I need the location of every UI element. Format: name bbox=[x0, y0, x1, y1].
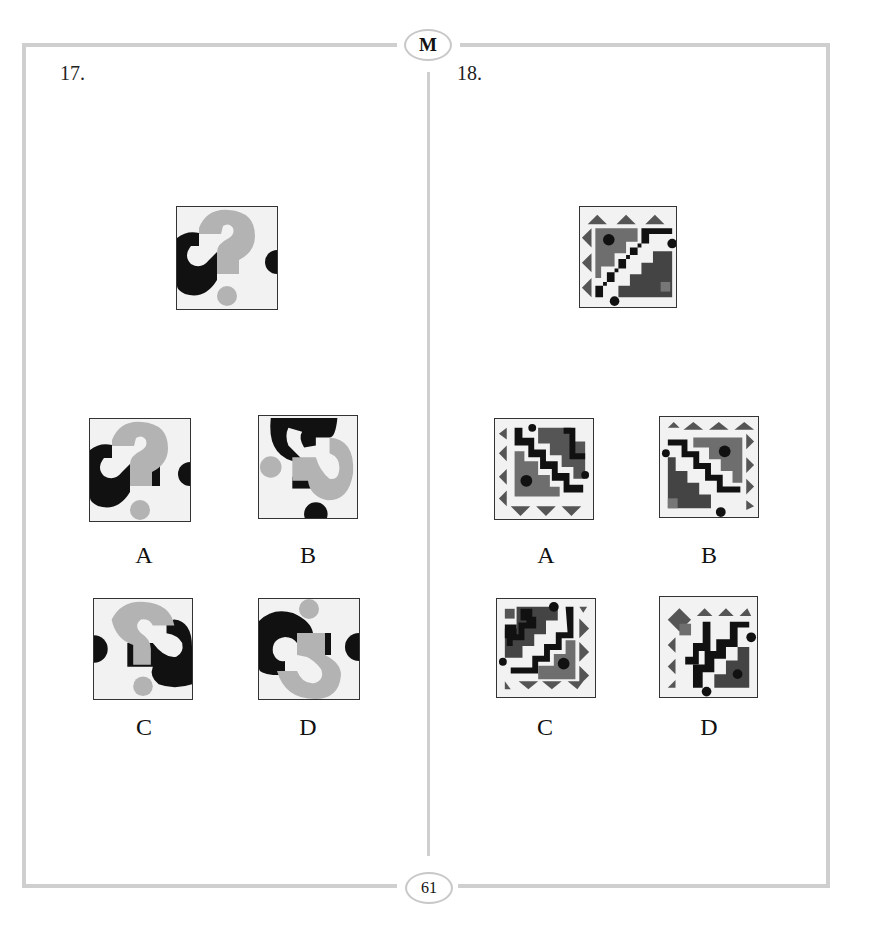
question-18-option-c-figure[interactable] bbox=[496, 598, 596, 698]
question-18-option-a-label[interactable]: A bbox=[526, 542, 566, 569]
frame-top-right bbox=[460, 43, 830, 47]
question-mark-pattern-icon bbox=[177, 207, 277, 309]
question-18-option-d-figure[interactable] bbox=[659, 596, 758, 698]
question-17-option-c-figure[interactable] bbox=[93, 598, 193, 700]
page-number-badge: 61 bbox=[405, 872, 453, 904]
question-17-option-b-label[interactable]: B bbox=[288, 542, 328, 569]
frame-top-left bbox=[22, 43, 397, 47]
question-18-option-a-figure[interactable] bbox=[494, 418, 594, 520]
question-mark-variant-a-icon bbox=[90, 419, 190, 521]
question-mark-variant-d-icon bbox=[259, 599, 359, 699]
section-badge: M bbox=[404, 29, 452, 61]
center-divider bbox=[427, 72, 430, 856]
frame-bottom-right bbox=[458, 884, 830, 888]
staircase-variant-a-icon bbox=[495, 419, 593, 519]
question-17-stem-figure bbox=[176, 206, 278, 310]
question-18-stem-figure bbox=[579, 206, 677, 308]
question-18-option-b-label[interactable]: B bbox=[689, 542, 729, 569]
question-number-18: 18. bbox=[457, 62, 482, 85]
staircase-variant-c-icon bbox=[497, 599, 595, 697]
frame-left bbox=[22, 43, 26, 888]
frame-right bbox=[826, 43, 830, 888]
question-18-option-c-label[interactable]: C bbox=[525, 714, 565, 741]
question-17-option-a-label[interactable]: A bbox=[124, 542, 164, 569]
question-17-option-d-label[interactable]: D bbox=[288, 714, 328, 741]
staircase-variant-b-icon bbox=[660, 417, 758, 517]
question-18-option-b-figure[interactable] bbox=[659, 416, 759, 518]
frame-bottom-left bbox=[22, 884, 397, 888]
question-17-option-a-figure[interactable] bbox=[89, 418, 191, 522]
question-number-17: 17. bbox=[60, 62, 85, 85]
staircase-pattern-icon bbox=[580, 207, 676, 307]
question-17-option-b-figure[interactable] bbox=[258, 415, 358, 519]
section-letter: M bbox=[419, 34, 437, 56]
question-mark-variant-b-icon bbox=[259, 416, 357, 518]
staircase-variant-d-icon bbox=[660, 597, 757, 697]
question-18-option-d-label[interactable]: D bbox=[689, 714, 729, 741]
question-mark-variant-c-icon bbox=[94, 599, 192, 699]
question-17-option-d-figure[interactable] bbox=[258, 598, 360, 700]
question-17-option-c-label[interactable]: C bbox=[124, 714, 164, 741]
page-number: 61 bbox=[421, 879, 437, 897]
